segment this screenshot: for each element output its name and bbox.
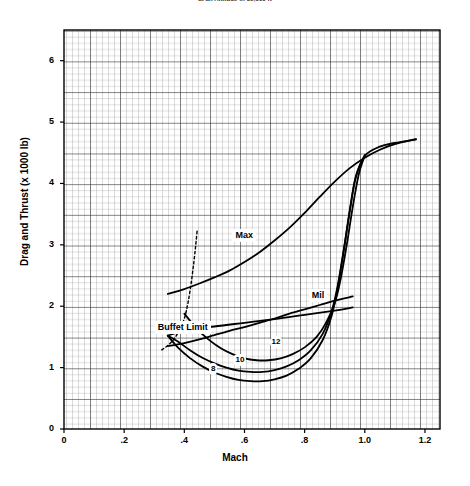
x-tick-label: 0 (49, 435, 79, 445)
curve-label-mil: Mil (309, 289, 328, 302)
x-tick-label: 1.0 (350, 435, 380, 445)
x-tick-label: .8 (290, 435, 320, 445)
curve-label-10: 10 (233, 354, 246, 366)
y-tick-label: 4 (32, 177, 54, 187)
y-tick-label: 5 (32, 116, 54, 126)
curve-label-8: 8 (209, 363, 217, 375)
x-tick-label: .2 (109, 435, 139, 445)
plot-canvas (0, 0, 470, 486)
y-tick-label: 3 (32, 239, 54, 249)
x-tick-label: 1.2 (410, 435, 440, 445)
y-tick-label: 2 (32, 300, 54, 310)
y-tick-label: 0 (32, 423, 54, 433)
y-axis-label: Drag and Thrust (x 1000 lb) (19, 122, 30, 282)
chart-title: at an Altitude of 35,000 ft (0, 0, 470, 2)
y-tick-label: 6 (32, 55, 54, 65)
x-tick-label: .6 (229, 435, 259, 445)
chart-figure: at an Altitude of 35,000 ft Drag and Thr… (0, 0, 470, 486)
curve-label-buffet-limit: Buffet Limit (155, 321, 211, 334)
y-tick-label: 1 (32, 362, 54, 372)
curve-label-12: 12 (270, 336, 283, 348)
x-axis-label: Mach (0, 452, 470, 463)
x-tick-label: .4 (169, 435, 199, 445)
curve-label-max: Max (232, 229, 256, 242)
